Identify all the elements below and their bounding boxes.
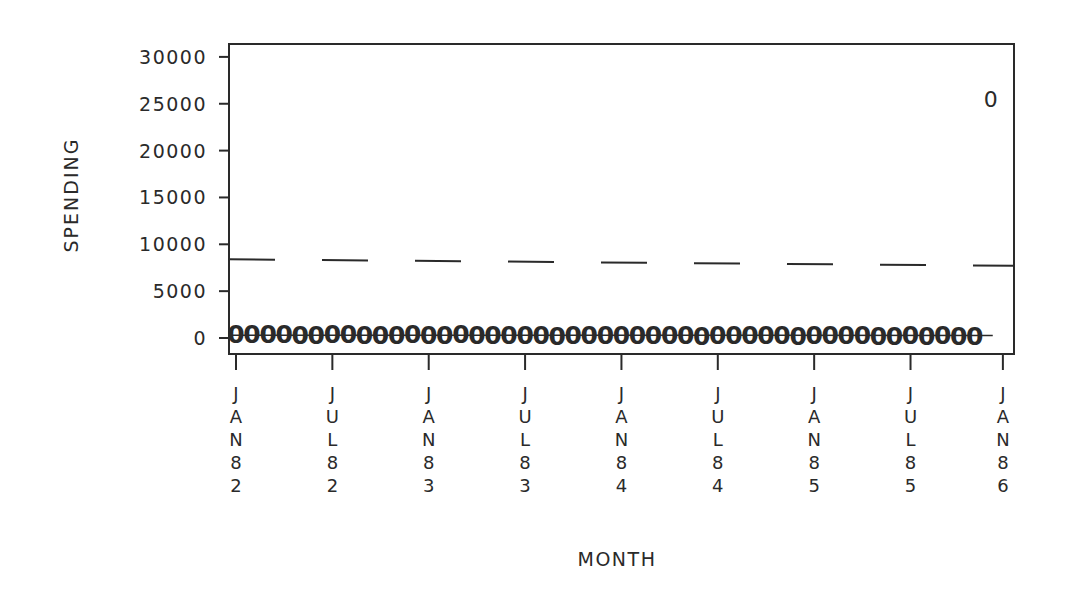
svg-text:J: J — [618, 383, 624, 404]
svg-text:J: J — [999, 383, 1005, 404]
svg-text:8: 8 — [327, 452, 338, 473]
svg-text:2: 2 — [327, 475, 338, 496]
x-tick: JAN83 — [422, 354, 436, 496]
data-marker: 0 — [565, 321, 582, 350]
data-marker: 0 — [677, 321, 694, 350]
data-marker: 0 — [372, 321, 389, 350]
spending-chart: 050001000015000200002500030000 JAN82JUL8… — [0, 0, 1070, 594]
svg-text:10000: 10000 — [139, 233, 207, 255]
x-tick: JAN84 — [615, 354, 629, 496]
svg-text:4: 4 — [712, 475, 723, 496]
y-axis: 050001000015000200002500030000 — [139, 46, 229, 349]
x-tick: JUL82 — [326, 354, 339, 496]
data-marker: 0 — [259, 320, 276, 349]
svg-text:A: A — [808, 406, 821, 427]
data-marker: 0 — [661, 321, 678, 350]
svg-text:8: 8 — [230, 452, 241, 473]
y-tick: 5000 — [153, 280, 229, 302]
data-marker: 0 — [404, 320, 421, 349]
data-marker: 0 — [773, 321, 790, 350]
data-marker: 0 — [966, 322, 983, 351]
svg-text:N: N — [615, 429, 628, 450]
x-tick: JUL83 — [518, 354, 531, 496]
svg-text:J: J — [425, 383, 431, 404]
svg-text:0: 0 — [193, 327, 207, 349]
data-marker: 0 — [886, 322, 903, 351]
data-marker: 0 — [902, 321, 919, 350]
data-marker: 0 — [693, 322, 710, 351]
data-marker: 0 — [934, 321, 951, 350]
svg-text:U: U — [518, 406, 531, 427]
svg-text:J: J — [232, 383, 238, 404]
data-marker: 0 — [420, 321, 437, 350]
svg-text:J: J — [521, 383, 527, 404]
data-marker: 0 — [805, 321, 822, 350]
data-marker: 0 — [918, 322, 935, 351]
data-marker: 0 — [854, 321, 871, 350]
svg-text:3: 3 — [519, 475, 530, 496]
data-marker: 0 — [645, 321, 662, 350]
svg-text:4: 4 — [616, 475, 627, 496]
svg-text:15000: 15000 — [139, 186, 207, 208]
data-marker: 0 — [613, 321, 630, 350]
data-marker: 0 — [452, 320, 469, 349]
svg-text:25000: 25000 — [139, 93, 207, 115]
data-marker: 0 — [597, 321, 614, 350]
data-marker: 0 — [356, 321, 373, 350]
x-axis: JAN82JUL82JAN83JUL83JAN84JUL84JAN85JUL85… — [229, 354, 1009, 496]
data-marker: 0 — [227, 320, 244, 349]
data-marker: 0 — [838, 321, 855, 350]
data-marker: 0 — [548, 322, 565, 351]
data-marker: 0 — [243, 320, 260, 349]
svg-text:L: L — [520, 429, 530, 450]
svg-text:8: 8 — [423, 452, 434, 473]
svg-text:8: 8 — [808, 452, 819, 473]
x-tick: JUL85 — [904, 354, 917, 496]
y-tick: 10000 — [139, 233, 229, 255]
data-marker: 0 — [950, 322, 967, 351]
svg-text:2: 2 — [230, 475, 241, 496]
y-axis-title: SPENDING — [60, 138, 82, 253]
svg-text:8: 8 — [712, 452, 723, 473]
svg-text:N: N — [996, 429, 1009, 450]
x-axis-title: MONTH — [578, 548, 657, 570]
svg-text:U: U — [326, 406, 339, 427]
svg-text:U: U — [904, 406, 917, 427]
svg-text:U: U — [711, 406, 724, 427]
svg-text:A: A — [230, 406, 243, 427]
spending-series: 0000000000000000000000000000000000000000… — [227, 87, 998, 351]
svg-text:6: 6 — [997, 475, 1008, 496]
data-marker: 0 — [789, 322, 806, 351]
data-marker: 0 — [709, 321, 726, 350]
outlier-marker: 0 — [984, 87, 998, 112]
data-marker: 0 — [757, 321, 774, 350]
data-marker: 0 — [532, 321, 549, 350]
data-marker: 0 — [388, 321, 405, 350]
svg-text:3: 3 — [423, 475, 434, 496]
data-marker: 0 — [324, 320, 341, 349]
svg-text:A: A — [423, 406, 436, 427]
svg-text:J: J — [329, 383, 335, 404]
x-tick: JAN86 — [996, 354, 1010, 496]
y-tick: 15000 — [139, 186, 229, 208]
data-marker: 0 — [468, 321, 485, 350]
svg-text:30000: 30000 — [139, 46, 207, 68]
svg-text:A: A — [615, 406, 628, 427]
svg-text:L: L — [327, 429, 337, 450]
svg-text:N: N — [229, 429, 242, 450]
svg-text:5: 5 — [808, 475, 819, 496]
data-marker: 0 — [275, 320, 292, 349]
data-marker: 0 — [292, 321, 309, 350]
svg-text:8: 8 — [616, 452, 627, 473]
y-tick: 30000 — [139, 46, 229, 68]
data-marker: 0 — [340, 320, 357, 349]
y-tick: 0 — [193, 327, 229, 349]
svg-text:L: L — [906, 429, 916, 450]
svg-text:J: J — [907, 383, 913, 404]
y-tick: 25000 — [139, 93, 229, 115]
svg-text:N: N — [807, 429, 820, 450]
svg-text:8: 8 — [997, 452, 1008, 473]
data-marker: 0 — [870, 322, 887, 351]
svg-text:5: 5 — [905, 475, 916, 496]
svg-text:8: 8 — [905, 452, 916, 473]
